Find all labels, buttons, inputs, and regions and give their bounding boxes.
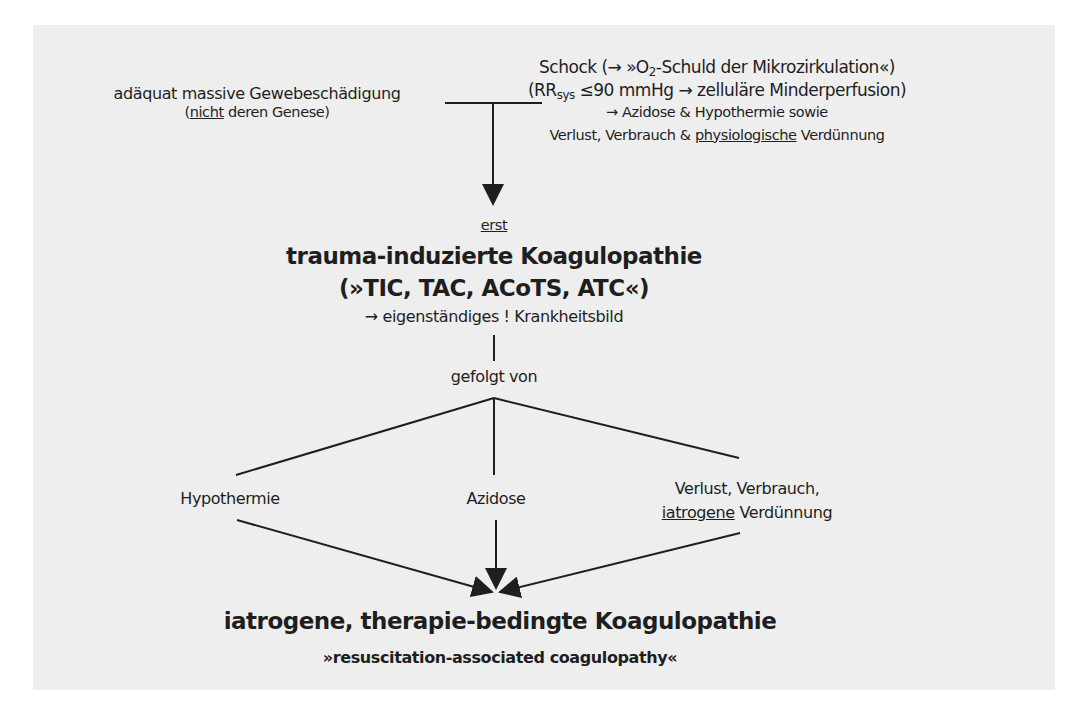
converging-arrows — [237, 520, 740, 592]
cause-tissue-damage-note: (nicht deren Genese) — [114, 104, 401, 120]
cause-tissue-damage: adäquat massive Gewebeschädigung (nicht … — [114, 84, 401, 120]
branch-lines — [236, 398, 739, 475]
tic-note: → eigenständiges ! Krankheitsbild — [365, 307, 623, 326]
factor-acidosis: Azidose — [466, 489, 525, 508]
shock-line-1: Schock (→ »O2-Schuld der Mikrozirkulatio… — [528, 56, 906, 79]
result-title: iatrogene, therapie-bedingte Koagulopath… — [224, 608, 777, 634]
shock-line-2: (RRsys ≤90 mmHg → zelluläre Minderperfus… — [528, 79, 906, 102]
tic-title: trauma-induzierte Koagulopathie — [286, 243, 702, 269]
shock-line-3: → Azidose & Hypothermie sowie — [528, 101, 906, 124]
result-subtitle: »resuscitation-associated coagulopathy« — [323, 648, 677, 667]
followed-by-label: gefolgt von — [451, 367, 537, 386]
factor-loss-dilution: Verlust, Verbrauch, iatrogene Verdünnung — [662, 477, 832, 525]
first-label: erst — [481, 217, 508, 233]
factor-hypothermia: Hypothermie — [180, 489, 279, 508]
tic-abbreviations: (»TIC, TAC, ACoTS, ATC«) — [339, 275, 649, 301]
cause-shock: Schock (→ »O2-Schuld der Mikrozirkulatio… — [528, 56, 906, 146]
shock-line-4: Verlust, Verbrauch & physiologische Verd… — [528, 124, 906, 147]
